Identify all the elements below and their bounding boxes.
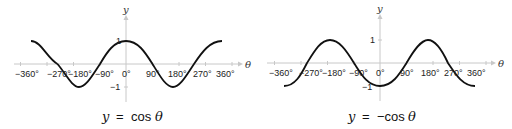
svg-text:θ: θ (155, 109, 163, 124)
figure: y θ 1 −1 −360° −270° −180° −90° 0° 90° 1… (0, 0, 512, 129)
x-tick-label: −90° (95, 69, 114, 79)
svg-text:y: y (347, 109, 356, 124)
x-axis-label: θ (245, 59, 251, 70)
svg-text:y: y (101, 109, 110, 124)
caption-neg-cos: y = −cos θ (347, 109, 416, 124)
x-tick-label: 0° (376, 68, 385, 78)
x-tick-label: 90° (146, 69, 160, 79)
x-tick-label: 360° (467, 68, 486, 78)
y-axis-label: y (376, 3, 383, 14)
caption-cos: y = cos θ (101, 109, 163, 124)
x-tick-label: 270° (444, 68, 463, 78)
x-tick-label: −180° (68, 69, 92, 79)
y-tick-1: 1 (116, 36, 121, 46)
y-axis-label: y (122, 4, 129, 15)
x-axis-label: θ (498, 58, 504, 69)
y-axis-arrow-icon (124, 15, 129, 20)
svg-text:θ: θ (408, 109, 416, 124)
x-tick-label: −180° (322, 68, 346, 78)
x-axis-arrow-icon (238, 62, 243, 67)
chart-neg-cos: y θ 1 −1 −360° −270° −180° −90° 0° 90° 1… (267, 3, 504, 124)
x-tick-label: 270° (193, 69, 212, 79)
x-tick-label: −360° (269, 68, 293, 78)
y-axis-arrow-icon (378, 14, 383, 19)
x-tick-label: 90° (400, 68, 414, 78)
x-axis-arrow-icon (491, 61, 496, 66)
svg-text:cos: cos (131, 109, 152, 124)
x-tick-label: 180° (168, 69, 187, 79)
x-tick-label: −270° (299, 68, 323, 78)
chart-cos: y θ 1 −1 −360° −270° −180° −90° 0° 90° 1… (14, 4, 251, 124)
y-tick-1: 1 (370, 35, 375, 45)
y-tick-neg1: −1 (362, 82, 372, 92)
y-tick-neg1: −1 (110, 82, 120, 92)
x-tick-label: −360° (15, 69, 39, 79)
x-tick-label: 0° (122, 69, 131, 79)
svg-text:=: = (116, 109, 124, 124)
svg-text:=: = (362, 109, 370, 124)
x-tick-label: 180° (421, 68, 440, 78)
svg-text:−cos: −cos (377, 109, 405, 124)
x-tick-label: −90° (349, 68, 368, 78)
x-tick-label: 360° (216, 69, 235, 79)
